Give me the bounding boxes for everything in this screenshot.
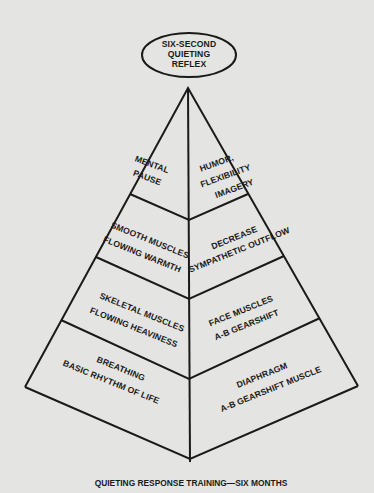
caption: QUIETING RESPONSE TRAINING—SIX MONTHS bbox=[95, 478, 288, 488]
level-2-left: SMOOTH MUSCLES FLOWING WARMTH bbox=[102, 219, 191, 275]
level-3-left: SKELETAL MUSCLES FLOWING HEAVINESS bbox=[89, 289, 187, 349]
apex-label-line-1: SIX-SECOND bbox=[162, 39, 216, 49]
pyramid-diagram: SIX-SECOND QUIETING REFLEX MENTAL PAUSE … bbox=[0, 0, 374, 493]
level-3-right: FACE MUSCLES A-B GEARSHIFT bbox=[207, 293, 281, 342]
pyramid-outline bbox=[25, 88, 358, 462]
apex-label-line-3: REFLEX bbox=[172, 59, 207, 69]
level-2-right: DECREASE SYMPATHETIC OUTFLOW bbox=[182, 213, 292, 275]
level-4-right: DIAPHRAGM A-B GEARSHIFT MUSCLE bbox=[213, 349, 323, 414]
apex-label-line-2: QUIETING bbox=[168, 49, 211, 59]
level-4-left: BREATHING BASIC RHYTHM OF LIFE bbox=[62, 343, 168, 406]
